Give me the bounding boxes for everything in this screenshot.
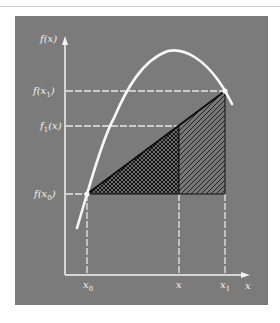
tick-label-f-x1: f(x1) [33, 86, 55, 99]
y-axis-label: f(x) [40, 34, 57, 44]
tick-label-x0: x0 [83, 280, 93, 293]
diagonal-hatched-region [179, 91, 225, 194]
y-axis-arrow-icon [62, 36, 68, 45]
point-x1 [222, 88, 227, 93]
tick-label-f1-x: f1(x) [40, 121, 62, 134]
linear-interpolation-diagram [0, 0, 280, 323]
x-axis-label: x [245, 281, 251, 291]
point-x0 [84, 191, 89, 196]
tick-label-x: x [176, 280, 182, 290]
tick-label-x1: x1 [220, 280, 230, 293]
tick-label-f-x0: f(x0) [34, 189, 56, 202]
x-axis-arrow-icon [241, 272, 250, 278]
